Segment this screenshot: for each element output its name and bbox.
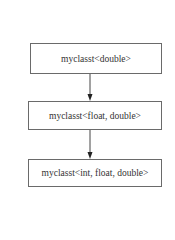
arrow-n1-to-n2	[88, 74, 93, 101]
node-myclasst-int-float-double: myclasst<int, float, double>	[28, 159, 162, 187]
arrow-n2-to-n3	[88, 130, 93, 159]
node-myclasst-double: myclasst<double>	[30, 43, 162, 74]
node-label: myclasst<int, float, double>	[42, 168, 149, 178]
node-label: myclasst<double>	[61, 54, 131, 64]
node-label: myclasst<float, double>	[49, 111, 141, 121]
node-myclasst-float-double: myclasst<float, double>	[28, 101, 162, 130]
